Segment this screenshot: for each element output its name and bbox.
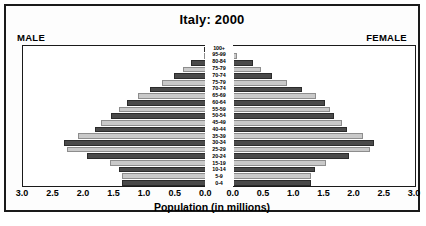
bar-row xyxy=(23,166,206,173)
bar-row xyxy=(232,146,415,153)
bar-right-65-69 xyxy=(232,93,316,99)
bar-right-45-49 xyxy=(232,120,342,126)
bar-row xyxy=(23,46,206,53)
bar-row xyxy=(232,113,415,120)
age-group-label: 40-44 xyxy=(205,126,233,133)
x-tick-right: 1.5 xyxy=(317,188,330,198)
bar-row xyxy=(23,173,206,180)
bar-row xyxy=(23,113,206,120)
bar-row xyxy=(23,86,206,93)
bar-row xyxy=(232,46,415,53)
bar-right-75-79 xyxy=(232,80,287,86)
bar-row xyxy=(23,133,206,140)
age-group-label: 60-64 xyxy=(205,99,233,106)
bar-left-45-49 xyxy=(101,120,206,126)
x-axis-title: Population (in millions) xyxy=(6,201,418,213)
bar-row xyxy=(23,79,206,86)
female-axis-label: FEMALE xyxy=(366,32,407,43)
bar-row xyxy=(232,106,415,113)
x-tick-right: 1.0 xyxy=(287,188,300,198)
x-tick-right: 2.0 xyxy=(347,188,360,198)
x-tick-left: 2.0 xyxy=(77,188,90,198)
bar-row xyxy=(23,106,206,113)
bar-row xyxy=(232,166,415,173)
bar-left-75-79 xyxy=(162,80,206,86)
bar-left-30-34 xyxy=(64,140,206,146)
bar-right-80-84 xyxy=(232,60,253,66)
bar-row xyxy=(23,139,206,146)
bar-right-70-74 xyxy=(232,73,272,79)
x-axis-ticks: 3.02.52.01.51.00.50.00.00.51.01.52.02.53… xyxy=(22,188,416,201)
bar-row xyxy=(23,73,206,80)
bar-right-70-74 xyxy=(232,87,302,93)
bar-row xyxy=(232,66,415,73)
bar-right-55-59 xyxy=(232,107,330,113)
bar-left-15-19 xyxy=(110,160,206,166)
age-group-labels: 100+95-9980-8475-7970-7475-7970-7465-696… xyxy=(205,45,233,187)
bar-right-40-44 xyxy=(232,127,347,133)
x-tick-left: 0.5 xyxy=(168,188,181,198)
chart-outer-frame: Italy: 2000 MALE FEMALE 100+95-9980-8475… xyxy=(4,4,420,212)
bar-row xyxy=(232,53,415,60)
x-tick-left: 3.0 xyxy=(16,188,29,198)
bar-row xyxy=(23,59,206,66)
bar-left-80-84 xyxy=(191,60,206,66)
male-bars-region xyxy=(23,46,206,186)
bar-row xyxy=(23,119,206,126)
x-tick-left: 1.5 xyxy=(107,188,120,198)
x-tick-right: 0.5 xyxy=(257,188,270,198)
bar-row xyxy=(232,139,415,146)
bar-left-65-69 xyxy=(138,93,206,99)
bar-row xyxy=(23,159,206,166)
bar-row xyxy=(232,99,415,106)
bar-right-5-9 xyxy=(232,173,311,179)
bar-row xyxy=(23,126,206,133)
bar-right-25-29 xyxy=(232,147,370,153)
bar-left-70-74 xyxy=(150,87,206,93)
chart-title: Italy: 2000 xyxy=(6,12,418,27)
bar-row xyxy=(232,179,415,186)
bar-left-0-4 xyxy=(122,180,206,186)
bar-row xyxy=(232,173,415,180)
bar-row xyxy=(232,86,415,93)
bar-row xyxy=(23,146,206,153)
bar-left-60-64 xyxy=(127,100,206,106)
bar-left-70-74 xyxy=(174,73,206,79)
bar-row xyxy=(232,159,415,166)
x-tick-left: 0.0 xyxy=(199,188,212,198)
x-tick-right: 2.5 xyxy=(378,188,391,198)
bar-right-30-34 xyxy=(232,140,374,146)
bar-left-5-9 xyxy=(122,173,206,179)
bar-right-35-39 xyxy=(232,133,363,139)
bar-left-25-29 xyxy=(67,147,206,153)
bar-row xyxy=(23,66,206,73)
x-tick-left: 1.0 xyxy=(138,188,151,198)
x-tick-left: 2.5 xyxy=(46,188,59,198)
age-group-label: 70-74 xyxy=(205,72,233,79)
bar-left-40-44 xyxy=(95,127,206,133)
bar-row xyxy=(232,73,415,80)
bar-left-20-24 xyxy=(87,153,206,159)
bar-left-35-39 xyxy=(78,133,206,139)
bar-left-75-79 xyxy=(183,67,206,73)
bar-row xyxy=(23,99,206,106)
bar-row xyxy=(23,179,206,186)
bar-row xyxy=(232,153,415,160)
bar-row xyxy=(232,59,415,66)
bar-row xyxy=(23,93,206,100)
bar-left-50-54 xyxy=(111,113,206,119)
bar-left-55-59 xyxy=(119,107,206,113)
bar-row xyxy=(232,93,415,100)
bar-right-0-4 xyxy=(232,180,311,186)
bar-row xyxy=(23,153,206,160)
bar-right-10-14 xyxy=(232,167,315,173)
bar-right-60-64 xyxy=(232,100,325,106)
male-axis-label: MALE xyxy=(17,32,45,43)
bar-right-15-19 xyxy=(232,160,326,166)
bar-row xyxy=(232,133,415,140)
bar-row xyxy=(232,126,415,133)
bar-row xyxy=(232,79,415,86)
bar-left-10-14 xyxy=(119,167,206,173)
age-group-label: 0-4 xyxy=(205,180,233,187)
bar-row xyxy=(232,119,415,126)
